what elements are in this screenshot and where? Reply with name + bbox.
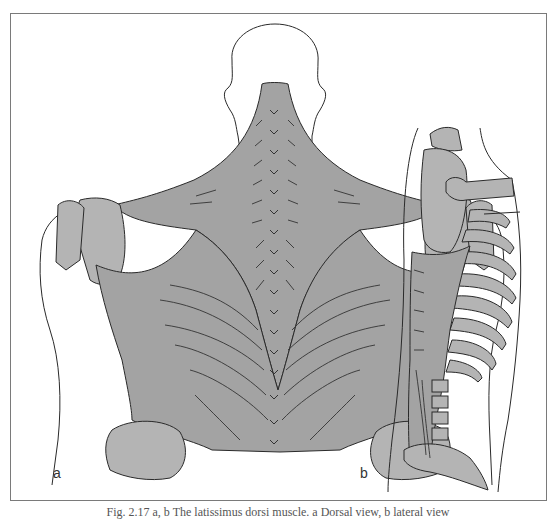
lateral-pelvis bbox=[404, 444, 488, 490]
left-iliac-crest bbox=[106, 421, 186, 479]
panel-label-b: b bbox=[360, 465, 368, 481]
left-upper-arm bbox=[56, 201, 84, 270]
panel-label-a: a bbox=[53, 465, 61, 481]
lateral-humerus bbox=[446, 178, 514, 201]
figure-caption: Fig. 2.17 a, b The latissimus dorsi musc… bbox=[0, 505, 556, 520]
